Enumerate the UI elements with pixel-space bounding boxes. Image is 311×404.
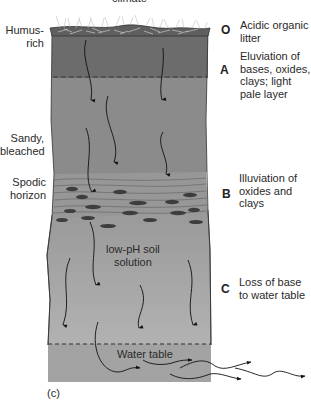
spodic-label-line2: horizon (0, 189, 46, 202)
climate-caption: climate (112, 0, 147, 5)
a-upper-layer (52, 30, 208, 78)
low-ph-solution-label: low-pH soil solution (106, 243, 160, 268)
horizon-c-line: to water table (239, 289, 305, 302)
solution-label-line2: solution (106, 256, 160, 269)
c-horizon-layer (47, 210, 211, 345)
horizon-o-line: Acidic organic (240, 19, 308, 32)
horizon-a-line: pale layer (240, 88, 310, 101)
horizon-o-line: litter (240, 32, 308, 45)
horizon-letter-o: O (221, 23, 230, 37)
horizon-b-line: clays (239, 197, 297, 210)
solution-label-line1: low-pH soil (106, 243, 160, 256)
horizon-b-line: oxides and (239, 185, 297, 198)
panel-label: (c) (47, 387, 60, 400)
horizon-a-line: Eluviation of (240, 50, 310, 63)
horizon-c-line: Loss of base (239, 276, 305, 289)
spodic-horizon-label: Spodic horizon (0, 176, 46, 201)
horizon-letter-a: A (220, 63, 229, 77)
sandy-label-line1: Sandy, (0, 132, 44, 145)
horizon-a-description: Eluviation of bases, oxides, clays; ligh… (240, 50, 310, 100)
humus-label-line2: rich (2, 37, 44, 50)
sandy-bleached-label: Sandy, bleached (0, 132, 44, 157)
horizon-o-description: Acidic organic litter (240, 19, 308, 44)
horizon-a-line: bases, oxides, (240, 63, 310, 76)
water-table-label: Water table (117, 348, 173, 361)
horizon-c-description: Loss of base to water table (239, 276, 305, 301)
horizon-b-line: Illuviation of (239, 172, 297, 185)
sandy-label-line2: bleached (0, 145, 44, 158)
horizon-letter-b: B (222, 187, 231, 201)
humus-rich-label: Humus- rich (2, 24, 44, 49)
horizon-b-description: Illuviation of oxides and clays (239, 172, 297, 210)
horizon-letter-c: C (221, 282, 230, 296)
horizon-a-line: clays; light (240, 75, 310, 88)
humus-label-line1: Humus- (2, 24, 44, 37)
o-horizon-litter (50, 25, 210, 36)
spodic-label-line1: Spodic (0, 176, 46, 189)
